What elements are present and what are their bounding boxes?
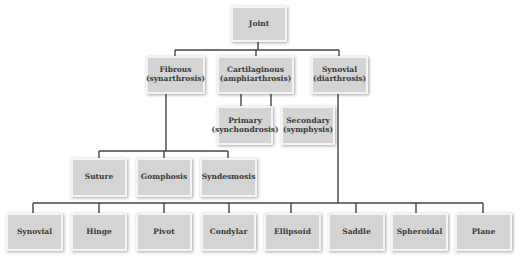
node-suture: Suture <box>71 158 127 197</box>
node-label: Joint <box>249 20 269 29</box>
node-condylar: Condylar <box>201 213 256 251</box>
node-sublabel: (diarthrosis) <box>313 75 366 84</box>
node-primary: Primary (synchondrosis) <box>217 106 273 145</box>
node-label: Condylar <box>210 228 248 237</box>
node-sublabel: (synarthrosis) <box>146 75 205 84</box>
node-label: Plane <box>472 228 496 237</box>
node-label: Pivot <box>153 228 174 237</box>
node-label: Gomphosis <box>141 173 187 182</box>
node-sublabel: (amphiarthrosis) <box>220 75 291 84</box>
node-synovial: Synovial <box>6 213 63 251</box>
node-plane: Plane <box>455 213 512 251</box>
node-pivot: Pivot <box>136 213 192 251</box>
node-label: Suture <box>85 173 114 182</box>
node-ellipsoid: Ellipsoid <box>264 213 321 251</box>
node-label: Synovial <box>17 228 52 237</box>
node-label: Saddle <box>342 228 370 237</box>
node-label: Ellipsoid <box>274 228 311 237</box>
node-spheroidal: Spheroidal <box>391 213 448 251</box>
node-syndesmosis: Syndesmosis <box>200 158 257 197</box>
node-hinge: Hinge <box>71 213 127 251</box>
node-label: Spheroidal <box>397 228 443 237</box>
node-joint: Joint <box>231 6 287 42</box>
node-label: Hinge <box>86 228 111 237</box>
node-sublabel: (synchondrosis) <box>211 126 278 135</box>
node-secondary: Secondary (symphysis) <box>281 106 335 145</box>
node-saddle: Saddle <box>328 213 385 251</box>
node-gomphosis: Gomphosis <box>136 158 192 197</box>
node-fibrous: Fibrous (synarthrosis) <box>146 56 205 94</box>
node-sublabel: (symphysis) <box>283 126 333 135</box>
node-cartilaginous: Cartilaginous (amphiarthrosis) <box>217 56 294 94</box>
node-label: Syndesmosis <box>202 173 256 182</box>
node-synovial-class: Synovial (diarthrosis) <box>311 56 368 94</box>
